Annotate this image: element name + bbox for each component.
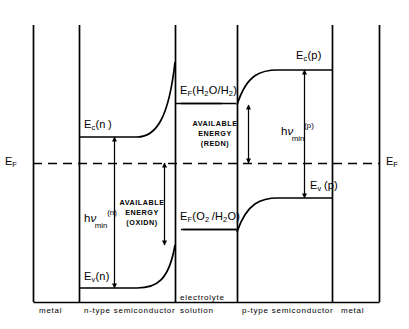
ef-o2-h2o-label: EF(O2 /H2O) (180, 211, 240, 224)
ec-n-subscript: c (92, 123, 96, 132)
fermi-left-subscript: F (12, 160, 17, 169)
region-label-electrolyte-line1: electrolyte (180, 294, 225, 302)
ef-o2-h2o-subscript: F (188, 215, 193, 224)
figure-background (0, 0, 409, 329)
ef-h2o-h2-subscript: F (188, 89, 193, 98)
ev-p-label: Ev (p) (310, 180, 338, 193)
ev-p-subscript: v (318, 184, 322, 193)
ev-n-subscript: v (92, 275, 96, 284)
fermi-level-label-left: EF (5, 156, 17, 169)
ec-n-label: Ec(n ) (84, 119, 112, 132)
region-label-p-type-semiconductor: p-type semiconductor (242, 307, 333, 315)
oxidn-line-3: (OXIDN) (118, 218, 166, 228)
redn-line-3: (REDN) (190, 139, 240, 149)
region-label-metal-left: metal (39, 307, 62, 315)
fermi-level-label-right: EF (386, 156, 398, 169)
band-diagram-figure (0, 0, 409, 329)
ec-p-label: Ec(p) (296, 50, 322, 63)
hv-min-p-label: hνmin(p) (281, 125, 315, 139)
region-label-n-type-semiconductor: n-type semiconductor (84, 307, 175, 315)
oxidn-line-1: AVAILABLE (118, 198, 166, 208)
available-energy-redn-label: AVAILABLE ENERGY (REDN) (190, 119, 240, 150)
region-label-electrolyte-line2: solution (180, 307, 214, 315)
region-label-metal-right: metal (341, 307, 364, 315)
hv-min-n-label: hνmin(n) (84, 212, 118, 226)
ev-n-label: Ev(n) (84, 271, 110, 284)
redn-line-2: ENERGY (190, 129, 240, 139)
oxidn-line-2: ENERGY (118, 208, 166, 218)
ef-h2o-h2-label: EF(H2O/H2) (180, 85, 237, 98)
redn-line-1: AVAILABLE (190, 119, 240, 129)
available-energy-oxidn-label: AVAILABLE ENERGY (OXIDN) (118, 198, 166, 229)
ec-p-subscript: c (304, 54, 308, 63)
fermi-right-subscript: F (393, 160, 398, 169)
